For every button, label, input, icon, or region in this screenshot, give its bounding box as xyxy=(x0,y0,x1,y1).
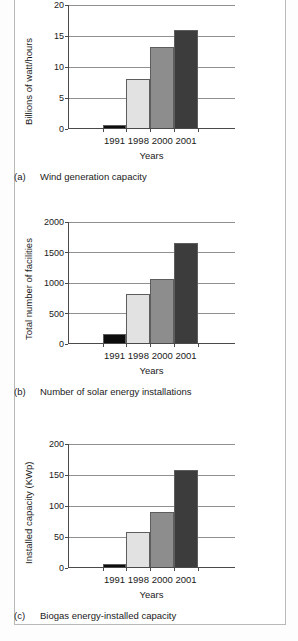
y-axis-title-c: Installed capacity (KWp) xyxy=(24,462,34,564)
y-tick-label: 200 xyxy=(49,440,64,449)
y-tick-label: 10 xyxy=(54,63,64,72)
x-axis-title-c: Years xyxy=(68,589,235,600)
plot-area-b: 05001000150020001991199820002001 xyxy=(68,222,235,344)
gridline xyxy=(68,222,235,223)
x-tick-mark xyxy=(103,129,104,132)
bar-1998 xyxy=(126,79,150,129)
caption-tag-b: (b) xyxy=(14,386,40,397)
x-axis-a xyxy=(68,128,235,129)
bar-1998 xyxy=(126,532,150,568)
x-tick-mark xyxy=(103,344,104,347)
y-tick-label: 1000 xyxy=(44,279,64,288)
x-tick-label-2001: 2001 xyxy=(176,574,197,585)
y-axis-c xyxy=(68,444,69,568)
y-tick-label: 150 xyxy=(49,471,64,480)
chart-panel-a: 051015201991199820002001 Billions of wat… xyxy=(0,0,298,190)
y-tick-label: 5 xyxy=(59,94,64,103)
caption-text-c: Biogas energy-installed capacity xyxy=(40,610,176,621)
x-tick-label-1998: 1998 xyxy=(128,350,149,361)
caption-tag-a: (a) xyxy=(14,171,40,182)
figure-page: 051015201991199820002001 Billions of wat… xyxy=(0,0,298,641)
x-tick-label-2001: 2001 xyxy=(176,350,197,361)
x-tick-mark xyxy=(103,568,104,571)
y-tick-label: 2000 xyxy=(44,218,64,227)
bar-2000 xyxy=(150,512,174,568)
y-tick-label: 0 xyxy=(59,564,64,573)
gridline xyxy=(68,36,235,37)
x-tick-mark xyxy=(198,344,199,347)
y-axis-b xyxy=(68,222,69,344)
x-axis-b xyxy=(68,343,235,344)
y-tick-label: 0 xyxy=(59,125,64,134)
y-axis-title-b: Total number of facilities xyxy=(24,238,34,340)
bar-2001 xyxy=(174,470,198,568)
chart-panel-b: 05001000150020001991199820002001 Total n… xyxy=(0,190,298,410)
x-tick-mark xyxy=(126,344,127,347)
x-tick-mark xyxy=(174,344,175,347)
y-tick-label: 0 xyxy=(59,340,64,349)
x-tick-mark xyxy=(126,129,127,132)
bar-2000 xyxy=(150,47,174,129)
bar-2000 xyxy=(150,279,174,344)
caption-text-b: Number of solar energy installations xyxy=(40,386,192,397)
x-tick-mark xyxy=(198,568,199,571)
x-tick-mark xyxy=(174,568,175,571)
x-tick-mark xyxy=(150,344,151,347)
caption-text-a: Wind generation capacity xyxy=(40,171,147,182)
x-tick-label-2001: 2001 xyxy=(176,135,197,146)
x-tick-mark xyxy=(150,568,151,571)
bar-1998 xyxy=(126,294,150,344)
x-tick-label-2000: 2000 xyxy=(152,574,173,585)
y-tick-label: 50 xyxy=(54,533,64,542)
chart-panel-c: 0501001502001991199820002001 Installed c… xyxy=(0,412,298,624)
x-tick-label-1991: 1991 xyxy=(104,135,125,146)
x-tick-label-1998: 1998 xyxy=(128,135,149,146)
y-axis-title-a: Billions of watt/hours xyxy=(24,38,34,125)
gridline xyxy=(68,444,235,445)
caption-c: (c)Biogas energy-installed capacity xyxy=(14,610,176,621)
x-tick-mark xyxy=(126,568,127,571)
plot-area-c: 0501001502001991199820002001 xyxy=(68,444,235,568)
gridline xyxy=(68,506,235,507)
y-tick-label: 1500 xyxy=(44,248,64,257)
gridline xyxy=(68,475,235,476)
x-axis-title-a: Years xyxy=(68,150,235,161)
x-tick-label-2000: 2000 xyxy=(152,350,173,361)
x-tick-label-1998: 1998 xyxy=(128,574,149,585)
y-tick-label: 100 xyxy=(49,502,64,511)
gridline xyxy=(68,5,235,6)
x-tick-label-1991: 1991 xyxy=(104,574,125,585)
bar-2001 xyxy=(174,243,198,344)
x-tick-mark xyxy=(150,129,151,132)
x-tick-mark xyxy=(198,129,199,132)
x-tick-label-1991: 1991 xyxy=(104,350,125,361)
x-axis-title-b: Years xyxy=(68,365,235,376)
x-axis-c xyxy=(68,567,235,568)
y-axis-a xyxy=(68,5,69,129)
caption-b: (b)Number of solar energy installations xyxy=(14,386,192,397)
plot-area-a: 051015201991199820002001 xyxy=(68,5,235,129)
y-tick-label: 15 xyxy=(54,32,64,41)
x-tick-label-2000: 2000 xyxy=(152,135,173,146)
x-tick-mark xyxy=(174,129,175,132)
y-tick-label: 20 xyxy=(54,1,64,10)
y-tick-label: 500 xyxy=(49,309,64,318)
caption-tag-c: (c) xyxy=(14,610,40,621)
caption-a: (a)Wind generation capacity xyxy=(14,171,147,182)
gridline xyxy=(68,252,235,253)
bar-2001 xyxy=(174,30,198,129)
